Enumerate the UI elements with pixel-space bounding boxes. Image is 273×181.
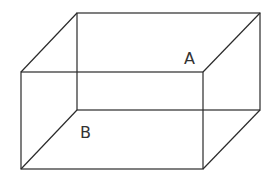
back-face [77, 13, 260, 110]
prism-diagram: A B [0, 0, 273, 181]
label-a: A [184, 49, 195, 68]
label-b: B [80, 123, 91, 142]
front-face [21, 72, 203, 169]
edge-bottom-left [21, 110, 77, 169]
edge-bottom-right [203, 110, 260, 169]
edge-top-left [21, 13, 77, 72]
edge-top-right [203, 13, 260, 72]
